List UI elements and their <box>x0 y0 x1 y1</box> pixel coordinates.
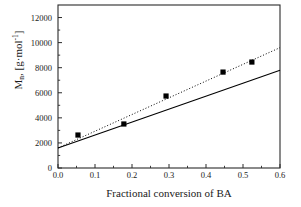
fit-lines <box>58 48 280 148</box>
plot-canvas <box>0 0 301 207</box>
chart-figure: Mn, [g·mol-1] 02000400060008000100001200… <box>0 0 301 207</box>
data-point-marker <box>121 121 126 126</box>
plot-frame <box>58 5 280 168</box>
dotted-trend-line <box>58 48 280 148</box>
plot-border <box>58 5 280 168</box>
data-point-marker <box>220 69 225 74</box>
data-point-marker <box>75 132 80 137</box>
axis-ticks <box>58 18 280 168</box>
x-axis-title: Fractional conversion of BA <box>58 187 280 199</box>
data-point-marker <box>163 93 168 98</box>
data-point-marker <box>249 59 254 64</box>
solid-theory-line <box>58 70 280 148</box>
